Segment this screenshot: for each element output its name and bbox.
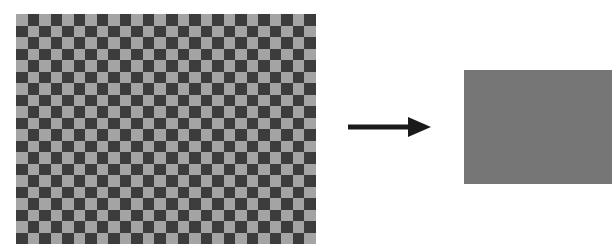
checker-cell: [201, 72, 213, 84]
checker-cell: [189, 14, 201, 26]
checker-cell: [247, 164, 259, 176]
checker-cell: [224, 14, 236, 26]
checker-cell: [281, 72, 293, 84]
checker-cell: [120, 175, 132, 187]
checker-cell: [74, 49, 86, 61]
checker-cell: [131, 95, 143, 107]
checker-cell: [166, 175, 178, 187]
checker-cell: [97, 26, 109, 38]
checker-cell: [74, 187, 86, 199]
checker-cell: [108, 221, 120, 233]
checker-cell: [235, 37, 247, 49]
checker-cell: [51, 95, 63, 107]
checker-cell: [258, 37, 270, 49]
checker-cell: [201, 95, 213, 107]
checker-cell: [51, 233, 63, 245]
checker-cell: [131, 141, 143, 153]
checker-cell: [97, 233, 109, 245]
checker-cell: [62, 60, 74, 72]
checker-cell: [258, 187, 270, 199]
checker-cell: [235, 72, 247, 84]
checker-cell: [224, 72, 236, 84]
checker-cell: [62, 72, 74, 84]
checker-cell: [16, 14, 28, 26]
checker-cell: [293, 233, 305, 245]
checker-cell: [108, 60, 120, 72]
checker-cell: [270, 72, 282, 84]
checker-cell: [62, 14, 74, 26]
checker-cell: [28, 49, 40, 61]
checker-cell: [247, 106, 259, 118]
checker-cell: [247, 210, 259, 222]
checker-cell: [143, 26, 155, 38]
checker-cell: [74, 106, 86, 118]
checker-cell: [235, 60, 247, 72]
checker-cell: [39, 221, 51, 233]
checker-cell: [154, 72, 166, 84]
checkerboard-pattern: [16, 14, 316, 244]
checker-cell: [281, 233, 293, 245]
checker-cell: [28, 26, 40, 38]
checker-cell: [28, 95, 40, 107]
checker-cell: [247, 129, 259, 141]
checker-cell: [281, 95, 293, 107]
checker-cell: [270, 14, 282, 26]
checker-cell: [270, 129, 282, 141]
checker-cell: [166, 83, 178, 95]
checker-cell: [143, 72, 155, 84]
checker-cell: [131, 187, 143, 199]
checker-cell: [258, 72, 270, 84]
checker-cell: [281, 152, 293, 164]
checker-cell: [281, 221, 293, 233]
checker-cell: [189, 37, 201, 49]
checker-cell: [247, 26, 259, 38]
checker-cell: [16, 106, 28, 118]
checker-cell: [85, 164, 97, 176]
checker-cell: [143, 221, 155, 233]
checker-cell: [166, 198, 178, 210]
checker-cell: [201, 210, 213, 222]
checker-cell: [258, 141, 270, 153]
checker-cell: [108, 152, 120, 164]
checker-cell: [28, 210, 40, 222]
checker-cell: [143, 106, 155, 118]
checker-cell: [39, 72, 51, 84]
checker-cell: [16, 164, 28, 176]
checker-cell: [235, 152, 247, 164]
checker-cell: [154, 233, 166, 245]
checker-cell: [154, 129, 166, 141]
checker-cell: [28, 175, 40, 187]
checker-cell: [166, 72, 178, 84]
checker-cell: [212, 37, 224, 49]
checker-cell: [178, 198, 190, 210]
checker-cell: [212, 198, 224, 210]
checker-cell: [189, 141, 201, 153]
checker-cell: [212, 129, 224, 141]
checker-cell: [143, 37, 155, 49]
checker-cell: [212, 26, 224, 38]
checker-cell: [281, 187, 293, 199]
checker-cell: [189, 198, 201, 210]
checker-cell: [16, 60, 28, 72]
checker-cell: [235, 95, 247, 107]
checker-cell: [178, 26, 190, 38]
checker-cell: [247, 72, 259, 84]
checker-cell: [235, 49, 247, 61]
checker-cell: [154, 164, 166, 176]
checker-cell: [97, 37, 109, 49]
checker-cell: [85, 152, 97, 164]
checker-cell: [39, 152, 51, 164]
checker-cell: [143, 198, 155, 210]
checker-cell: [189, 129, 201, 141]
checker-cell: [224, 83, 236, 95]
checker-cell: [154, 141, 166, 153]
checker-cell: [201, 221, 213, 233]
checker-cell: [247, 175, 259, 187]
checker-cell: [85, 175, 97, 187]
checker-cell: [97, 141, 109, 153]
checker-cell: [143, 83, 155, 95]
checker-cell: [120, 14, 132, 26]
checker-cell: [28, 83, 40, 95]
checker-cell: [108, 233, 120, 245]
checker-cell: [131, 49, 143, 61]
